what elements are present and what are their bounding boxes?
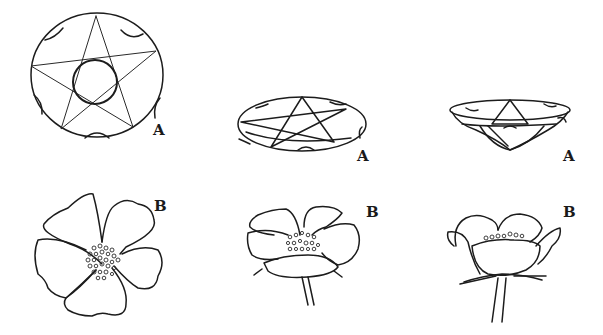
pentagram-bowl-icon [448,98,573,154]
figure-label-b-side: B [563,203,576,221]
figure-label-a-top: A [153,121,165,139]
figure-label-a-side: A [563,147,575,165]
rose-tilted-view [238,205,368,287]
pentagram-tilted-view [236,92,371,154]
pentagram-top-view [25,10,170,145]
pentagram-ellipse-icon [236,92,371,154]
rose-flower-icon [30,192,170,322]
rose-side-view [442,210,562,330]
rose-flower-side-icon [442,210,562,330]
rose-flower-tilted-icon [238,205,368,287]
figure-label-b-tilted: B [366,203,379,221]
figure-label-b-top: B [154,197,167,215]
pentagram-side-view [448,98,573,154]
pentagram-circle-icon [25,10,170,145]
rose-top-view [30,192,170,322]
figure-label-a-tilted: A [357,147,369,165]
